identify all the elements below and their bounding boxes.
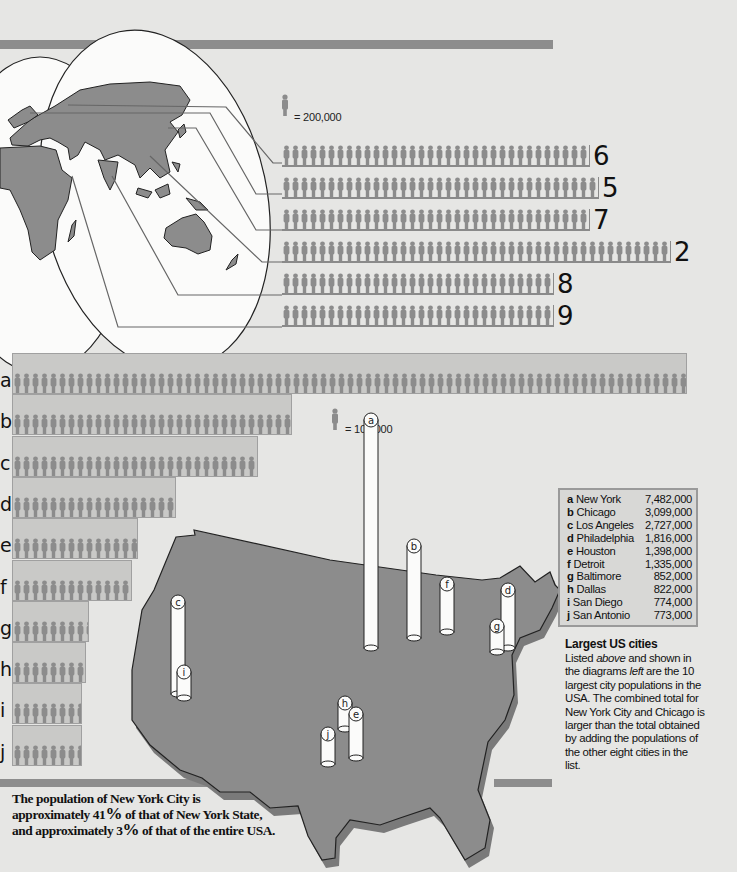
top-rule: [0, 40, 553, 49]
svg-text:g: g: [494, 621, 500, 632]
cylinder-a: a: [364, 413, 378, 651]
us-bar-c: [12, 436, 258, 477]
world-map: [0, 60, 290, 380]
caption-text: Listed: [565, 652, 596, 664]
caption-title: Largest US cities: [565, 637, 657, 651]
world-rank-label: 7: [593, 207, 610, 233]
city-population: 773,000: [654, 609, 692, 622]
caption-emphasis: above: [596, 652, 625, 664]
city-name: gBaltimore: [567, 570, 621, 583]
us-bar-i: [12, 683, 82, 724]
us-bar-letter: g: [0, 619, 12, 638]
svg-text:f: f: [445, 579, 449, 590]
us-bar-h: [12, 642, 86, 683]
city-population: 1,335,000: [645, 558, 692, 571]
svg-text:e: e: [353, 709, 359, 720]
us-bar-letter: d: [0, 495, 12, 514]
us-bar-letter: f: [0, 578, 7, 597]
table-row: iSan Diego774,000: [567, 596, 692, 609]
person-figures: [13, 745, 81, 765]
city-name: jSan Antonio: [567, 609, 630, 622]
world-rank-label: 6: [593, 143, 610, 169]
us-bar-a: [12, 353, 687, 394]
person-figures: [282, 209, 589, 229]
city-name: cLos Angeles: [567, 519, 634, 532]
us-bar-d: [12, 477, 176, 518]
city-population: 7,482,000: [645, 493, 692, 506]
world-rank-label: 5: [602, 175, 619, 201]
person-figures: [13, 497, 175, 517]
table-row: cLos Angeles2,727,000: [567, 519, 692, 532]
us-bar-e: [12, 518, 138, 559]
table-row: aNew York7,482,000: [567, 493, 692, 506]
world-rank-label: 8: [557, 271, 574, 297]
world-row: [282, 145, 590, 167]
svg-text:c: c: [175, 597, 181, 608]
footnote-line: and approximately 3% of that of the enti…: [12, 822, 342, 838]
person-figures: [282, 305, 553, 325]
cylinder-j: j: [321, 727, 335, 767]
cylinder-f: f: [440, 577, 454, 635]
cylinder-e: e: [349, 707, 363, 761]
person-figures: [13, 456, 257, 476]
person-figures: [13, 703, 81, 723]
person-figures: [13, 373, 686, 393]
person-figures: [282, 241, 670, 261]
caption-body: Listed above and shown in the diagrams l…: [565, 652, 705, 773]
caption-text: are the 10 largest city populations in t…: [565, 665, 705, 771]
city-name: dPhiladelphia: [567, 532, 634, 545]
person-figures: [282, 145, 589, 165]
person-figures: [13, 662, 85, 682]
world-legend-label: = 200,000: [294, 111, 341, 123]
table-row: fDetroit1,335,000: [567, 558, 692, 571]
city-population: 852,000: [654, 570, 692, 583]
footnote: The population of New York City is appro…: [12, 791, 342, 838]
city-name: eHouston: [567, 545, 616, 558]
world-rank-label: 2: [674, 239, 691, 265]
city-population: 3,099,000: [645, 506, 692, 519]
footnote-line: The population of New York City is: [12, 791, 342, 806]
footnote-line: approximately 41% of that of New York St…: [12, 806, 342, 822]
world-row: [282, 209, 590, 231]
world-row: [282, 177, 599, 199]
city-table: aNew York7,482,000bChicago3,099,000cLos …: [558, 488, 698, 627]
person-figures: [13, 580, 131, 600]
svg-text:i: i: [183, 667, 186, 678]
city-name: hDallas: [567, 583, 606, 596]
us-bar-letter: b: [0, 412, 12, 431]
table-row: dPhiladelphia1,816,000: [567, 532, 692, 545]
us-bar-b: [12, 394, 292, 435]
world-row: [282, 305, 554, 327]
table-row: hDallas822,000: [567, 583, 692, 596]
world-row: [282, 273, 554, 295]
person-figures: [282, 273, 553, 293]
us-bar-f: [12, 560, 132, 601]
caption-emphasis: left: [629, 665, 643, 677]
table-row: gBaltimore852,000: [567, 570, 692, 583]
svg-text:j: j: [326, 729, 330, 740]
city-population: 1,398,000: [645, 545, 692, 558]
us-bar-letter: h: [0, 660, 12, 679]
cylinder-g: g: [490, 619, 504, 655]
world-rank-label: 9: [557, 303, 574, 329]
us-bar-letter: a: [0, 371, 12, 390]
us-bar-letter: i: [0, 701, 5, 720]
cylinder-b: b: [407, 539, 421, 641]
svg-text:d: d: [505, 585, 511, 596]
us-bar-letter: c: [0, 454, 10, 473]
city-name: bChicago: [567, 506, 616, 519]
world-row: [282, 241, 671, 263]
person-figures: [13, 414, 291, 434]
city-name: aNew York: [567, 493, 621, 506]
person-figures: [282, 177, 598, 197]
us-bar-letter: e: [0, 536, 12, 555]
svg-text:h: h: [342, 698, 348, 709]
cylinder-i: i: [177, 665, 191, 701]
person-figures: [13, 538, 137, 558]
table-row: jSan Antonio773,000: [567, 609, 692, 622]
city-population: 822,000: [654, 583, 692, 596]
us-bar-g: [12, 601, 89, 642]
table-row: eHouston1,398,000: [567, 545, 692, 558]
us-bar-letter: j: [0, 743, 5, 762]
person-icon: [331, 408, 339, 430]
